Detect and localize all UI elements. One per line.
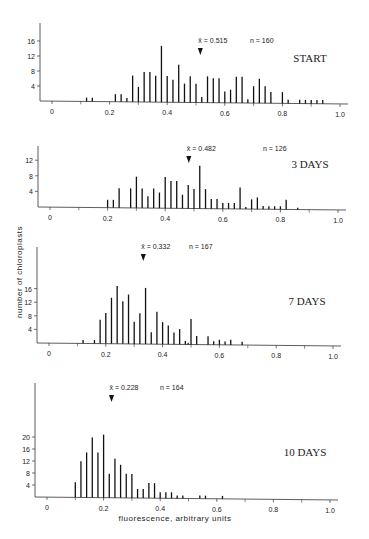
x-tick-label: 0.2 (105, 109, 115, 116)
mean-annotation: x̄ = 0.482 (187, 145, 216, 152)
x-tick-label: 0.4 (160, 215, 170, 222)
histogram-panel-3: 48121600.20.40.60.81.0x̄ = 0.332n = 1677… (24, 243, 341, 360)
y-tick-label: 4 (31, 83, 35, 90)
x-tick-label: 0 (48, 214, 52, 221)
x-axis-label: fluorescence, arbitrary units (119, 514, 232, 523)
x-tick-label: 0 (50, 108, 54, 115)
x-tick-label: 0.4 (158, 351, 168, 358)
y-tick-label: 8 (31, 68, 35, 75)
x-tick-label: 1.0 (335, 111, 345, 118)
mean-arrow-icon (186, 156, 191, 163)
y-tick-label: 4 (28, 326, 32, 333)
n-annotation: n = 126 (263, 145, 287, 152)
x-tick-label: 0.2 (103, 215, 113, 222)
x-tick-label: 0.8 (269, 506, 279, 513)
mean-annotation: x̄ = 0.515 (198, 37, 227, 44)
x-tick-label: 0.8 (271, 352, 281, 359)
y-tick-label: 12 (24, 299, 32, 306)
x-tick-label: 0.8 (278, 110, 288, 117)
histogram-panel-2: 481200.20.40.60.81.0x̄ = 0.482n = 1263 D… (25, 145, 346, 224)
x-tick-label: 0.4 (155, 505, 165, 512)
y-tick-label: 12 (27, 53, 35, 60)
panel-title: START (293, 52, 327, 64)
histogram-figure: 48121600.20.40.60.81.0x̄ = 0.515n = 160S… (0, 0, 369, 539)
y-tick-label: 20 (22, 434, 30, 441)
x-tick-label: 1.0 (328, 353, 338, 360)
mean-annotation: x̄ = 0.332 (141, 243, 170, 250)
n-annotation: n = 167 (189, 243, 213, 250)
x-tick-label: 0.6 (212, 506, 222, 513)
mean-annotation: x̄ = 0.228 (110, 384, 139, 391)
y-tick-label: 4 (29, 188, 33, 195)
y-tick-label: 4 (26, 482, 30, 489)
x-tick-label: 1.0 (333, 217, 343, 224)
x-tick-label: 0.4 (162, 109, 172, 116)
y-tick-label: 8 (26, 470, 30, 477)
x-tick-label: 0.2 (101, 351, 111, 358)
chart-canvas: 48121600.20.40.60.81.0x̄ = 0.515n = 160S… (0, 0, 369, 539)
n-annotation: n = 164 (160, 384, 184, 391)
mean-arrow-icon (141, 254, 146, 261)
x-tick-label: 0.2 (99, 505, 109, 512)
x-tick-label: 0.6 (220, 110, 230, 117)
y-tick-label: 8 (29, 173, 33, 180)
y-tick-label: 12 (25, 157, 33, 164)
y-tick-label: 16 (24, 286, 32, 293)
mean-arrow-icon (198, 48, 203, 55)
y-tick-label: 16 (27, 38, 35, 45)
y-tick-label: 16 (22, 446, 30, 453)
y-tick-label: 8 (28, 313, 32, 320)
n-annotation: n = 160 (250, 37, 274, 44)
histogram-panel-1: 48121600.20.40.60.81.0x̄ = 0.515n = 160S… (27, 23, 348, 118)
x-tick-label: 0 (47, 350, 51, 357)
x-tick-label: 0.8 (276, 216, 286, 223)
panel-title: 7 DAYS (288, 295, 325, 307)
x-tick-label: 1.0 (325, 507, 335, 514)
panel-title: 3 DAYS (291, 158, 328, 170)
y-axis-label: number of chloroplasts (15, 226, 24, 318)
y-tick-label: 12 (22, 458, 30, 465)
histogram-panel-4: 4812162000.20.40.60.81.0x̄ = 0.228n = 16… (22, 383, 338, 514)
x-tick-label: 0.6 (215, 352, 225, 359)
x-tick-label: 0.6 (218, 216, 228, 223)
panel-title: 10 DAYS (284, 446, 327, 458)
mean-arrow-icon (109, 395, 114, 402)
x-tick-label: 0 (45, 504, 49, 511)
